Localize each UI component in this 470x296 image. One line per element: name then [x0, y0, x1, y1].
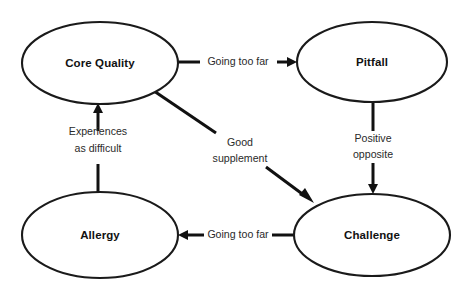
edge-label-positive-opposite-line1: Positive [354, 132, 391, 144]
node-pitfall-label: Pitfall [356, 56, 388, 68]
edge-label-experiences-as-difficult-line2: as difficult [75, 142, 122, 154]
node-challenge[interactable]: Challenge [294, 194, 450, 276]
edge-challenge-to-allergy: Going too far [178, 228, 295, 240]
edge-pitfall-to-challenge: Positive opposite [353, 102, 393, 194]
node-challenge-label: Challenge [344, 229, 400, 241]
edge-label-good-supplement-line2: supplement [213, 152, 268, 164]
node-core-quality-label: Core Quality [65, 57, 135, 69]
edge-label-good-supplement-line1: Good [227, 136, 253, 148]
edge-label-positive-opposite-line2: opposite [353, 148, 393, 160]
node-allergy-label: Allergy [80, 229, 120, 241]
arrowhead-left-icon [178, 230, 188, 240]
arrowhead-diagonal-icon [299, 188, 314, 203]
arrowhead-right-icon [287, 57, 297, 67]
edge-label-going-too-far-bottom: Going too far [207, 228, 269, 240]
node-core-quality[interactable]: Core Quality [22, 22, 178, 104]
edge-line-segment-lower [266, 167, 305, 196]
core-quadrant-diagram: Going too far Positive opposite Going to… [0, 0, 470, 296]
edge-line-segment-upper [151, 89, 216, 133]
edge-core-quality-to-pitfall: Going too far [178, 55, 297, 67]
edge-core-quality-to-challenge: Good supplement [151, 89, 314, 203]
edge-label-experiences-as-difficult-line1: Experiences [69, 125, 127, 137]
edge-allergy-to-core-quality: Experiences as difficult [69, 103, 127, 192]
node-allergy[interactable]: Allergy [22, 192, 178, 278]
arrowhead-down-icon [368, 184, 378, 194]
edge-label-going-too-far-top: Going too far [207, 55, 269, 67]
node-pitfall[interactable]: Pitfall [297, 22, 447, 102]
diagram-canvas: Going too far Positive opposite Going to… [0, 0, 470, 296]
